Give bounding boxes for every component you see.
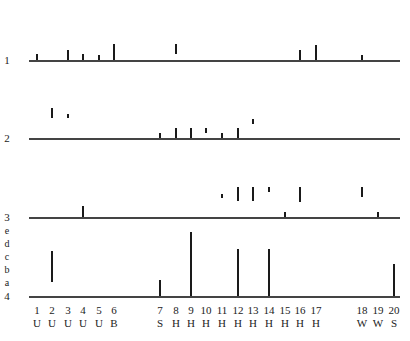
event-bar xyxy=(205,128,207,133)
x-tick-category: H xyxy=(277,318,293,329)
y-level-label: d xyxy=(2,239,12,249)
event-bar xyxy=(82,206,84,217)
x-tick-number: 19 xyxy=(370,305,386,316)
x-tick-category: U xyxy=(44,318,60,329)
x-tick-category: S xyxy=(152,318,168,329)
event-bar xyxy=(284,212,286,217)
x-tick-category: U xyxy=(91,318,107,329)
event-bar xyxy=(377,212,379,217)
event-bar xyxy=(237,187,239,201)
event-bar xyxy=(82,54,84,60)
event-bar xyxy=(190,128,192,138)
x-tick-number: 12 xyxy=(230,305,246,316)
event-bar xyxy=(299,187,301,202)
row-label: 4 xyxy=(2,291,12,302)
x-tick-number: 17 xyxy=(308,305,324,316)
x-tick-category: U xyxy=(29,318,45,329)
event-bar xyxy=(393,264,395,297)
x-tick-category: W xyxy=(354,318,370,329)
event-raster-diagram: 1234abcde1U2U3U4U5U6B7S8H9H10H11H12H13H1… xyxy=(0,0,410,341)
x-tick-number: 3 xyxy=(60,305,76,316)
event-bar xyxy=(159,133,161,138)
x-tick-category: H xyxy=(292,318,308,329)
y-level-label: e xyxy=(2,226,12,236)
x-tick-number: 7 xyxy=(152,305,168,316)
x-tick-category: B xyxy=(106,318,122,329)
event-bar xyxy=(175,44,177,54)
event-bar xyxy=(190,232,192,296)
x-tick-number: 20 xyxy=(386,305,402,316)
x-tick-number: 14 xyxy=(261,305,277,316)
event-bar xyxy=(268,249,270,296)
row-baseline xyxy=(29,138,400,140)
x-tick-number: 11 xyxy=(214,305,230,316)
x-tick-number: 8 xyxy=(168,305,184,316)
x-tick-number: 18 xyxy=(354,305,370,316)
event-bar xyxy=(221,133,223,138)
row-label: 3 xyxy=(2,212,12,223)
x-tick-category: H xyxy=(198,318,214,329)
event-bar xyxy=(51,108,53,118)
event-bar xyxy=(67,114,69,118)
row-baseline xyxy=(29,217,400,219)
x-tick-number: 1 xyxy=(29,305,45,316)
x-tick-category: H xyxy=(214,318,230,329)
event-bar xyxy=(361,187,363,197)
x-tick-category: U xyxy=(60,318,76,329)
row-label: 1 xyxy=(2,55,12,66)
event-bar xyxy=(159,280,161,296)
event-bar xyxy=(237,249,239,296)
event-bar xyxy=(315,45,317,60)
x-tick-number: 16 xyxy=(292,305,308,316)
x-tick-category: S xyxy=(386,318,402,329)
event-bar xyxy=(221,194,223,199)
x-tick-category: W xyxy=(370,318,386,329)
event-bar xyxy=(175,128,177,138)
row-baseline xyxy=(29,296,400,298)
event-bar xyxy=(98,55,100,60)
event-bar xyxy=(252,187,254,201)
y-level-label: a xyxy=(2,278,12,288)
x-tick-number: 15 xyxy=(277,305,293,316)
event-bar xyxy=(67,50,69,60)
x-tick-number: 5 xyxy=(91,305,107,316)
x-tick-category: H xyxy=(245,318,261,329)
x-tick-number: 6 xyxy=(106,305,122,316)
x-tick-category: H xyxy=(308,318,324,329)
event-bar xyxy=(237,128,239,138)
event-bar xyxy=(252,119,254,124)
x-tick-category: U xyxy=(75,318,91,329)
x-tick-number: 4 xyxy=(75,305,91,316)
x-tick-category: H xyxy=(230,318,246,329)
x-tick-category: H xyxy=(168,318,184,329)
row-label: 2 xyxy=(2,133,12,144)
x-tick-number: 2 xyxy=(44,305,60,316)
y-level-label: c xyxy=(2,252,12,262)
event-bar xyxy=(361,55,363,60)
x-tick-number: 10 xyxy=(198,305,214,316)
event-bar xyxy=(51,251,53,283)
x-tick-number: 9 xyxy=(183,305,199,316)
event-bar xyxy=(299,50,301,60)
event-bar xyxy=(268,187,270,192)
row-baseline xyxy=(29,60,400,62)
event-bar xyxy=(113,44,115,60)
event-bar xyxy=(36,54,38,60)
x-tick-category: H xyxy=(183,318,199,329)
x-tick-number: 13 xyxy=(245,305,261,316)
x-tick-category: H xyxy=(261,318,277,329)
y-level-label: b xyxy=(2,265,12,275)
